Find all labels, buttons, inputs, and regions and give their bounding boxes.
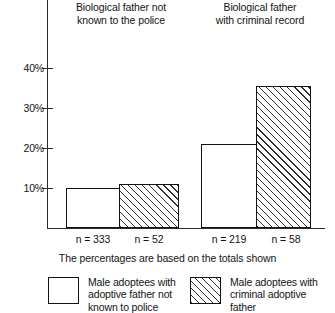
n-label-1: n = 52 [118,233,180,245]
legend-swatch-hatched-icon [190,277,221,304]
n-label-2: n = 219 [196,233,262,245]
legend-item-open: Male adoptees with adoptive father not k… [48,276,176,313]
y-tick-label-10: 10% [24,182,44,194]
y-axis-line [47,0,48,229]
y-tick-label-30: 30% [24,102,44,114]
bar-chart: Biological father not known to the polic… [0,0,335,313]
n-label-3: n = 58 [256,233,316,245]
chart-legend: Male adoptees with adoptive father not k… [0,276,335,313]
bar-group1-open [66,188,120,228]
legend-item-hatched: Male adoptees with criminal adoptive fat… [190,276,318,313]
bar-group2-open [201,144,257,228]
chart-caption: The percentages are based on the totals … [0,252,335,264]
legend-swatch-open-icon [48,277,79,304]
bar-group2-hatched [256,86,311,228]
y-tick-label-40: 40% [24,62,44,74]
y-tick-label-20: 20% [24,142,44,154]
legend-label-open: Male adoptees with adoptive father not k… [88,276,176,313]
legend-label-hatched: Male adoptees with criminal adoptive fat… [230,276,318,313]
bar-group1-hatched [119,184,179,228]
plot-area: 40% 30% 20% 10% n = 333 n = 52 n = 219 n… [0,0,335,232]
